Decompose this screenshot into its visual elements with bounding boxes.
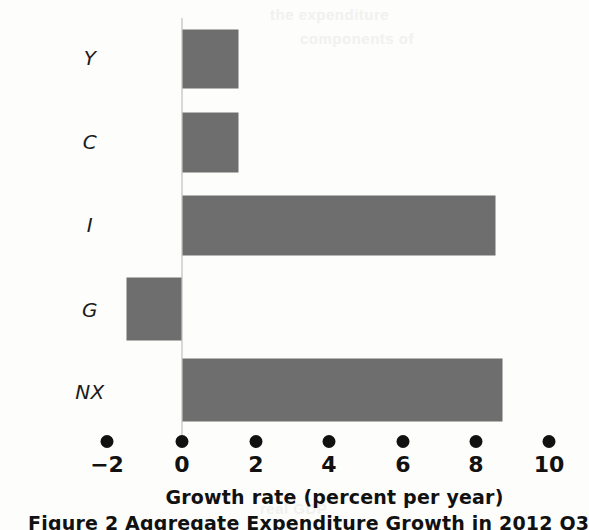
- x-tick-label-minus2: −2: [90, 452, 124, 477]
- x-tick-dot-minus2: [101, 435, 114, 448]
- x-tick-label-2: 2: [248, 452, 263, 477]
- figure-caption: Figure 2 Aggregate Expenditure Growth in…: [0, 512, 589, 530]
- category-label-nx: NX: [30, 380, 150, 404]
- x-tick-dot-0: [176, 435, 189, 448]
- bar-y: [183, 30, 238, 88]
- x-tick-label-0: 0: [174, 452, 189, 477]
- category-label-y: Y: [30, 46, 150, 70]
- figure-page: the expenditure components of real GDP Y…: [0, 0, 589, 530]
- x-tick-dot-10: [543, 435, 556, 448]
- category-label-c: C: [30, 130, 150, 154]
- category-label-i: I: [30, 213, 150, 237]
- x-tick-label-4: 4: [321, 452, 336, 477]
- x-tick-label-10: 10: [534, 452, 565, 477]
- bar-g: [127, 278, 181, 340]
- bar-nx: [183, 359, 502, 421]
- bar-i: [183, 196, 495, 255]
- x-tick-label-6: 6: [395, 452, 410, 477]
- bar-c: [183, 113, 238, 172]
- x-tick-dot-8: [470, 435, 483, 448]
- x-axis-title-wrap: Growth rate (percent per year): [0, 486, 589, 508]
- x-tick-dot-4: [323, 435, 336, 448]
- x-tick-dot-2: [250, 435, 263, 448]
- bar-chart-plot-area: Y C I G NX: [0, 0, 589, 440]
- x-axis: −2 0 2 4 6 8 10 Growth rate (percent per…: [0, 430, 589, 520]
- x-axis-title: Growth rate (percent per year): [85, 486, 503, 508]
- x-tick-label-8: 8: [468, 452, 483, 477]
- x-tick-dot-6: [397, 435, 410, 448]
